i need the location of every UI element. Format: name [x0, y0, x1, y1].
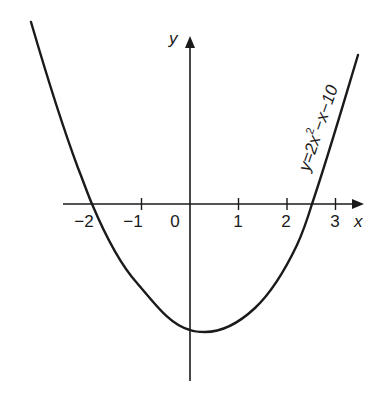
x-axis-label: x	[354, 213, 363, 230]
parabola-graph	[0, 0, 388, 393]
y-axis-label: y	[169, 30, 178, 47]
x-tick-label: −1	[123, 213, 142, 230]
x-tick-label: 0	[170, 213, 179, 230]
x-axis-arrow-icon	[352, 199, 364, 209]
x-tick-label: −2	[74, 213, 93, 230]
parabola-curve	[31, 22, 358, 332]
x-tick-label: 3	[330, 213, 339, 230]
x-tick-label: 2	[281, 213, 290, 230]
x-tick-label: 1	[233, 213, 242, 230]
y-axis-arrow-icon	[185, 36, 195, 48]
